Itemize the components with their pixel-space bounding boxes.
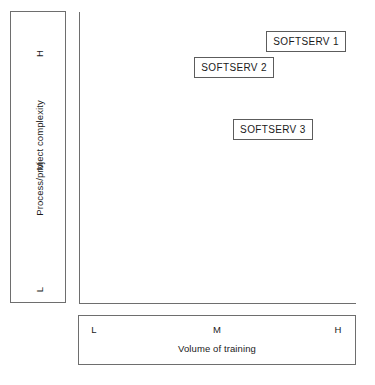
y-axis-tick-mid: M <box>34 152 45 182</box>
y-axis-tick-high: H <box>34 39 45 69</box>
y-axis-line <box>79 12 80 304</box>
y-axis-label-box: Process/project complexity H M L <box>10 11 66 303</box>
chart-canvas: Process/project complexity H M L SOFTSER… <box>0 0 375 385</box>
data-point-label: SOFTSERV 1 <box>266 31 346 52</box>
y-axis-tick-low: L <box>34 275 45 305</box>
x-axis-tick-mid: M <box>207 324 227 335</box>
data-point-label: SOFTSERV 2 <box>194 57 274 78</box>
data-point-label: SOFTSERV 3 <box>233 119 313 140</box>
plot-area: SOFTSERV 1SOFTSERV 2SOFTSERV 3 <box>79 12 356 304</box>
x-axis-title: Volume of training <box>79 343 355 354</box>
x-axis-label-box: L M H Volume of training <box>78 315 356 365</box>
x-axis-tick-low: L <box>84 324 104 335</box>
x-axis-tick-high: H <box>328 324 348 335</box>
x-axis-line <box>79 303 356 304</box>
